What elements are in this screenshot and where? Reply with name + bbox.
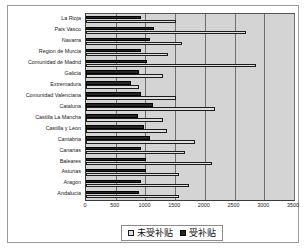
bar-unsubsidized: [86, 129, 167, 132]
category-label: Pais Vasco: [54, 26, 81, 32]
value-axis-labels: 0500100015002000250030003500: [8, 202, 300, 214]
bar-unsubsidized: [86, 195, 179, 198]
category-label: Navarra: [62, 37, 81, 43]
x-tick-label: 1500: [168, 202, 180, 209]
category-label: Extremadura: [50, 81, 81, 87]
bar-subsidized: [86, 180, 141, 183]
bar-unsubsidized: [86, 42, 182, 45]
chart-legend: 未受补贴受补贴: [121, 225, 223, 241]
bar-subsidized: [86, 92, 141, 95]
bar-unsubsidized: [86, 20, 176, 23]
category-label: Cataluna: [59, 103, 81, 109]
bar-series-container: [86, 14, 294, 200]
bar-unsubsidized: [86, 140, 195, 143]
bar-subsidized: [86, 103, 153, 106]
bar-subsidized: [86, 169, 146, 172]
bar-unsubsidized: [86, 64, 256, 67]
bar-unsubsidized: [86, 53, 168, 56]
x-tick-label: 2500: [228, 202, 240, 209]
bar-subsidized: [86, 38, 150, 41]
bar-subsidized: [86, 191, 139, 194]
bar-subsidized: [86, 16, 141, 19]
legend-swatch-icon: [128, 230, 134, 236]
bar-subsidized: [86, 147, 141, 150]
legend-item: 受补贴: [180, 228, 216, 238]
bar-subsidized: [86, 114, 138, 117]
category-label: Castilla y Leon: [46, 125, 81, 131]
bar-subsidized: [86, 158, 146, 161]
category-label: Castilla La Mancha: [35, 114, 81, 120]
category-label: Canarias: [59, 147, 81, 153]
bar-subsidized: [86, 27, 154, 30]
category-label: Cantabria: [58, 136, 81, 142]
x-tick-label: 3000: [257, 202, 269, 209]
x-tick-label: 3500: [287, 202, 299, 209]
bar-unsubsidized: [86, 96, 176, 99]
legend-item: 未受补贴: [128, 228, 173, 238]
legend-label: 受补贴: [189, 228, 216, 238]
bar-subsidized: [86, 81, 131, 84]
category-label: Aragon: [64, 179, 81, 185]
legend-swatch-icon: [180, 230, 186, 236]
chart-frame: La RiojaPais VascoNavarraRegion de Murci…: [7, 5, 299, 243]
category-label: Comunidad Valenciana: [26, 92, 81, 98]
bar-unsubsidized: [86, 74, 163, 77]
bar-subsidized: [86, 136, 150, 139]
category-label: Galicia: [65, 70, 81, 76]
x-tick-label: 1000: [138, 202, 150, 209]
category-axis-labels: La RiojaPais VascoNavarraRegion de Murci…: [8, 13, 84, 199]
category-label: Baleares: [60, 158, 81, 164]
gridline-3500: [294, 14, 295, 200]
x-tick-label: 2000: [198, 202, 210, 209]
x-tick-label: 0: [84, 202, 87, 209]
bar-unsubsidized: [86, 107, 215, 110]
bar-subsidized: [86, 49, 141, 52]
legend-label: 未受补贴: [137, 228, 173, 238]
bar-unsubsidized: [86, 173, 179, 176]
category-label: La Rioja: [61, 15, 81, 21]
bar-unsubsidized: [86, 151, 185, 154]
category-label: Region de Murcia: [39, 48, 81, 54]
bar-unsubsidized: [86, 162, 212, 165]
category-label: Asturias: [62, 168, 81, 174]
bar-unsubsidized: [86, 85, 139, 88]
x-tick-label: 500: [110, 202, 119, 209]
bar-subsidized: [86, 70, 139, 73]
plot-area: [85, 13, 295, 201]
bar-unsubsidized: [86, 184, 189, 187]
category-label: Andalucia: [57, 190, 81, 196]
bar-unsubsidized: [86, 31, 246, 34]
bar-subsidized: [86, 60, 147, 63]
bar-subsidized: [86, 125, 144, 128]
bar-unsubsidized: [86, 118, 163, 121]
category-label: Comunidad de Madrid: [28, 59, 81, 65]
